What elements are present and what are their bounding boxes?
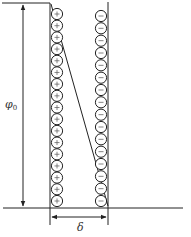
thickness-label: δ — [77, 221, 84, 234]
double-layer-diagram: φ0 δ — [0, 0, 191, 237]
negative-charge-layer — [95, 10, 106, 206]
positive-charge-layer — [51, 8, 62, 206]
potential-label: φ0 — [5, 98, 17, 112]
